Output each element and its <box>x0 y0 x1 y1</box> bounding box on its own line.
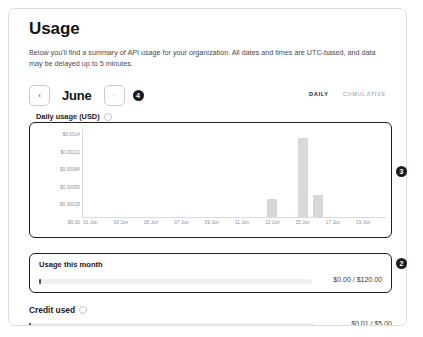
usage-meter-fill <box>39 279 41 284</box>
chart-x-tick: 15 Jun <box>295 220 309 225</box>
credit-used-heading: Credit used <box>29 305 87 315</box>
credit-used-meter: $0.01 / $5.00 <box>29 321 392 326</box>
chevron-left-icon: ‹ <box>38 91 41 100</box>
chart-y-tick: $0.00084 <box>60 167 80 172</box>
annotation-badge-3: 3 <box>396 166 407 177</box>
credit-meter-value: $0.01 / $5.00 <box>351 320 392 326</box>
chart-heading-label: Daily usage (USD) <box>36 112 100 121</box>
credit-meter-fill <box>29 323 31 326</box>
annotation-badge-4: 4 <box>133 90 144 101</box>
page-description: Below you'll find a summary of API usage… <box>29 47 384 70</box>
chart-x-axis-line <box>82 217 386 218</box>
chart-y-tick: $0.0014 <box>63 132 80 137</box>
chart-heading: Daily usage (USD) <box>36 112 112 121</box>
next-month-button[interactable]: › <box>104 85 125 106</box>
usage-this-month-panel: Usage this month $0.00 / $120.00 <box>29 253 392 293</box>
month-navigation: ‹ June › 4 <box>29 85 144 106</box>
chart-y-tick: $0.00028 <box>60 202 80 207</box>
chart-x-tick: 13 Jun <box>265 220 279 225</box>
chart-x-tick: 17 Jun <box>326 220 340 225</box>
daily-usage-chart: $0.0014$0.00112$0.00084$0.00056$0.00028$… <box>29 122 392 238</box>
previous-month-button[interactable]: ‹ <box>29 85 50 106</box>
chart-bar[interactable] <box>267 199 277 217</box>
usage-page-card: Usage Below you'll find a summary of API… <box>8 8 407 326</box>
tab-cumulative[interactable]: CUMULATIVE <box>343 91 386 97</box>
info-icon[interactable] <box>79 306 87 314</box>
credit-meter-track <box>29 323 314 326</box>
info-icon[interactable] <box>104 113 112 121</box>
usage-mode-toggle: DAILY CUMULATIVE <box>309 91 386 97</box>
chart-x-tick: 01 Jun <box>83 220 97 225</box>
page-title: Usage <box>29 19 80 39</box>
usage-this-month-meter: $0.00 / $120.00 <box>39 277 382 286</box>
chart-bar[interactable] <box>313 195 323 217</box>
chart-bars-area <box>83 129 386 217</box>
chart-x-tick: 07 Jun <box>174 220 188 225</box>
chart-plot-wrapper: $0.0014$0.00112$0.00084$0.00056$0.00028$… <box>30 123 391 237</box>
usage-meter-value: $0.00 / $120.00 <box>333 276 382 283</box>
chart-y-tick: $0.00 <box>68 220 80 225</box>
chevron-right-icon: › <box>113 91 116 100</box>
chart-x-axis-labels: 01 Jun03 Jun05 Jun07 Jun09 Jun11 Jun13 J… <box>83 220 386 232</box>
chart-y-axis-labels: $0.0014$0.00112$0.00084$0.00056$0.00028$… <box>35 128 80 216</box>
chart-x-tick: 11 Jun <box>235 220 249 225</box>
chart-x-tick: 19 Jun <box>356 220 370 225</box>
chart-y-tick: $0.00112 <box>60 149 80 154</box>
usage-meter-track <box>39 279 312 284</box>
chart-y-tick: $0.00056 <box>60 184 80 189</box>
tab-daily[interactable]: DAILY <box>309 91 329 97</box>
chart-x-tick: 05 Jun <box>144 220 158 225</box>
current-month-label: June <box>62 88 92 103</box>
annotation-badge-2: 2 <box>396 258 407 269</box>
chart-bar[interactable] <box>298 138 308 217</box>
chart-x-tick: 09 Jun <box>205 220 219 225</box>
usage-this-month-title: Usage this month <box>39 260 382 269</box>
chart-x-tick: 03 Jun <box>114 220 128 225</box>
credit-used-label: Credit used <box>29 305 75 315</box>
